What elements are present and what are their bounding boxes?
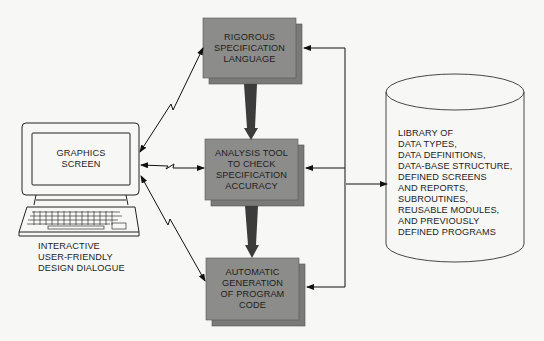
connector-computer-box1 bbox=[140, 48, 203, 152]
box-3-label: AUTOMATIC GENERATION OF PROGRAM CODE bbox=[206, 258, 299, 320]
screen-label: GRAPHICS SCREEN bbox=[32, 133, 130, 185]
library-label: LIBRARY OF DATA TYPES, DATA DEFINITIONS,… bbox=[398, 128, 522, 238]
flow-arrow-2-to-3 bbox=[245, 206, 259, 258]
connector-computer-box2 bbox=[141, 164, 204, 169]
keyboard-keys bbox=[27, 211, 126, 229]
library-connectors bbox=[304, 48, 387, 287]
computer-caption: INTERACTIVE USER-FRIENDLY DESIGN DIALOGU… bbox=[38, 241, 158, 274]
flow-arrow-1-to-2 bbox=[244, 84, 258, 140]
monitor-stand bbox=[34, 195, 128, 205]
box-1-label: RIGOROUS SPECIFICATION LANGUAGE bbox=[203, 18, 296, 78]
box-2-label: ANALYSIS TOOL TO CHECK SPECIFICATION ACC… bbox=[205, 139, 298, 200]
keyboard bbox=[19, 207, 139, 236]
